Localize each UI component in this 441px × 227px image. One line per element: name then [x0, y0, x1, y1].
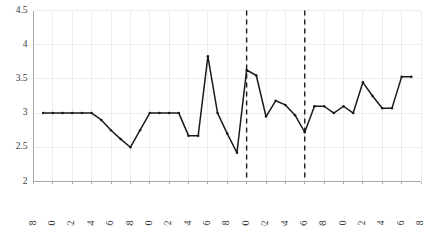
series-data-point — [81, 112, 84, 115]
series-data-point — [168, 112, 171, 115]
x-axis-tick-label: 2018 — [415, 220, 425, 226]
x-axis-tick-label: 1978 — [28, 220, 38, 226]
gridlines — [34, 11, 422, 182]
x-axis-tick-label: 2012 — [357, 220, 367, 226]
y-axis-tick-labels: 22.533.544.5 — [16, 5, 28, 186]
chart-canvas: 22.533.544.51978198019821984198619881990… — [0, 0, 441, 226]
x-axis-tick-label: 1980 — [47, 220, 57, 226]
series-data-point — [207, 55, 210, 58]
series-data-point — [149, 112, 152, 115]
series-data-point — [391, 107, 394, 110]
series-data-point — [129, 146, 132, 149]
x-axis-tick-label: 2002 — [260, 220, 270, 226]
x-axis-tick-label: 2000 — [241, 220, 251, 226]
x-axis-tick-label: 1994 — [183, 220, 193, 226]
x-axis-tick-label: 1984 — [86, 220, 96, 226]
x-axis-tick-label: 2014 — [376, 220, 386, 226]
series-data-point — [100, 119, 103, 122]
series-data-point — [294, 114, 297, 117]
x-axis-tick-label: 1986 — [105, 220, 115, 226]
x-axis-tick-label: 1996 — [202, 220, 212, 226]
series-data-point — [119, 138, 122, 141]
series-data-point — [90, 112, 93, 115]
x-axis-tick-label: 1992 — [163, 220, 173, 226]
series-data-point — [362, 81, 365, 84]
x-axis-tick-label: 2010 — [338, 220, 348, 226]
y-axis-tick-label: 3.5 — [16, 73, 28, 83]
series-data-point — [226, 132, 229, 135]
y-axis-tick-label: 3 — [23, 107, 28, 117]
series-data-point — [110, 129, 113, 132]
y-axis-tick-label: 4.5 — [16, 5, 28, 15]
series-data-point — [284, 104, 287, 107]
series-data-point — [274, 100, 277, 103]
annotations — [247, 11, 305, 182]
y-axis-tick-label: 2 — [23, 176, 28, 186]
series-data-point — [216, 112, 219, 115]
y-axis-tick-label: 2.5 — [16, 141, 28, 151]
series-data-point — [52, 112, 55, 115]
series-data-point — [139, 129, 142, 132]
x-axis-tick-label: 2006 — [299, 220, 309, 226]
x-axis-tick-label: 2004 — [280, 220, 290, 226]
series-data-point — [178, 112, 181, 115]
x-axis-tick-label: 1998 — [221, 220, 231, 226]
series-data-point — [410, 76, 413, 79]
series-data-point — [71, 112, 74, 115]
series-data-point — [381, 107, 384, 110]
series-data-point — [313, 105, 316, 108]
x-axis-tick-label: 2008 — [318, 220, 328, 226]
series-data-point — [371, 95, 374, 98]
series-data-point — [197, 134, 200, 137]
x-axis-tick-label: 1988 — [125, 220, 135, 226]
series-data-point — [42, 112, 45, 115]
series-data-point — [342, 105, 345, 108]
series-data-point — [352, 112, 355, 115]
x-axis-tick-labels: 1978198019821984198619881990199219941996… — [28, 182, 426, 227]
series-data-point — [265, 115, 268, 118]
series-data-point — [187, 134, 190, 137]
x-axis-tick-label: 1990 — [144, 220, 154, 226]
y-axis-tick-label: 4 — [23, 39, 28, 49]
series-data-point — [158, 112, 161, 115]
x-axis-tick-label: 2016 — [396, 220, 406, 226]
x-axis-tick-label: 1982 — [66, 220, 76, 226]
series-data-point — [236, 152, 239, 155]
series-data-point — [400, 76, 403, 79]
series-data-point — [61, 112, 64, 115]
series-data-point — [323, 105, 326, 108]
series-data-point — [255, 74, 258, 77]
series-data-point — [333, 112, 336, 115]
line-chart: 22.533.544.51978198019821984198619881990… — [0, 0, 441, 226]
